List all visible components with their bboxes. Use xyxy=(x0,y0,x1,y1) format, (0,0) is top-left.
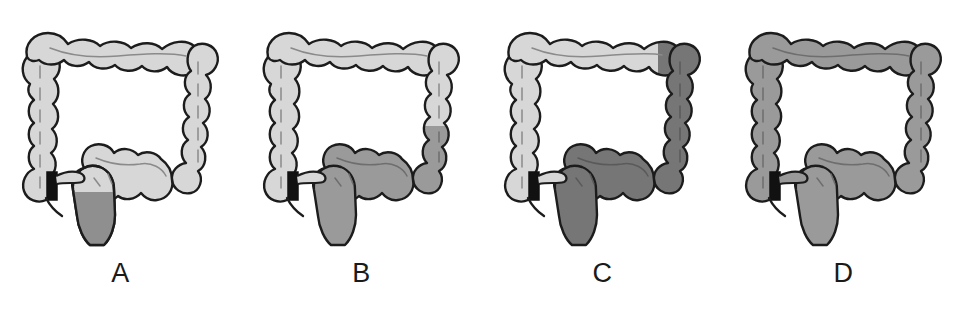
panel-label-c: C xyxy=(593,260,613,287)
panel-a: A xyxy=(0,0,241,315)
terminal-ileum-b xyxy=(288,172,298,200)
panel-c: C xyxy=(482,0,723,315)
ileum-loop-b xyxy=(297,172,325,184)
terminal-ileum-c xyxy=(529,172,539,200)
colon-body-b xyxy=(264,33,471,245)
colon-illustration-d xyxy=(723,0,964,262)
panel-b: B xyxy=(241,0,482,315)
ileum-loop-a xyxy=(56,172,84,184)
colon-illustration-c xyxy=(482,0,723,262)
panel-label-a: A xyxy=(111,260,130,287)
panel-d: D xyxy=(723,0,964,315)
terminal-ileum-a xyxy=(47,172,57,200)
terminal-ileum-d xyxy=(770,172,780,200)
panel-label-b: B xyxy=(352,260,371,287)
colon-body-d xyxy=(746,33,941,245)
ileum-loop-d xyxy=(779,172,807,184)
ileum-loop-c xyxy=(538,172,566,184)
affected-descending-b xyxy=(401,126,471,206)
colon-extent-figure: A xyxy=(0,0,964,315)
colon-illustration-b xyxy=(241,0,482,262)
colon-body-a xyxy=(23,33,218,252)
panel-label-d: D xyxy=(834,260,854,287)
colon-body-c xyxy=(505,28,718,245)
colon-illustration-a xyxy=(0,0,241,262)
